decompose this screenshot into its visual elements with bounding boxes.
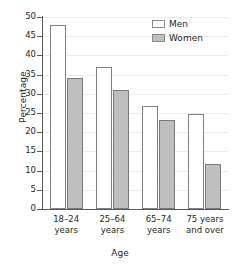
bar-women-4 (205, 164, 221, 209)
x-axis-category-label: 25–64years (86, 214, 138, 236)
x-axis-title: Age (0, 248, 240, 258)
gridline (43, 75, 228, 76)
plot-area (43, 17, 228, 209)
y-axis-tick-label: 20 (16, 127, 36, 136)
bar-men-1 (50, 25, 66, 209)
bar-men-4 (188, 114, 204, 209)
y-axis-tick-label-wrap: 45 (12, 31, 36, 41)
x-axis-category-label-line: years (86, 225, 138, 236)
y-axis-tick-label: 5 (16, 185, 36, 194)
y-axis-tick-label-wrap: 35 (12, 70, 36, 80)
x-axis-category-label: 18–24years (40, 214, 92, 236)
y-axis-tick-label-wrap: 0 (12, 204, 36, 214)
legend-item-label: Men (169, 19, 188, 29)
x-axis-category-label-line: 25–64 (99, 214, 125, 224)
y-axis-tick-label-wrap: 5 (12, 185, 36, 195)
legend-item-label: Women (169, 33, 203, 43)
x-axis-category-label-line: years (133, 225, 185, 236)
chart-legend: MenWomen (152, 17, 203, 45)
bar-women-2 (113, 90, 129, 209)
y-axis-tick-label: 35 (16, 70, 36, 79)
y-axis-tick-label: 40 (16, 50, 36, 59)
y-axis-tick-label-wrap: 20 (12, 127, 36, 137)
y-axis-tick-label: 25 (16, 108, 36, 117)
women-swatch-icon (152, 34, 165, 42)
y-axis-tick-label-wrap: 10 (12, 166, 36, 176)
x-axis-category-label-line: years (40, 225, 92, 236)
gridline (43, 55, 228, 56)
y-axis-tick-label: 45 (16, 31, 36, 40)
bar-women-1 (67, 78, 83, 209)
y-axis-tick-label: 0 (16, 204, 36, 213)
y-axis-tick-label-wrap: 50 (12, 12, 36, 22)
x-axis-category-label: 75 yearsand over (179, 214, 231, 236)
y-axis-tick-label: 10 (16, 166, 36, 175)
x-axis-category-label: 65–74years (133, 214, 185, 236)
y-axis-tick-label-wrap: 25 (12, 108, 36, 118)
bar-women-3 (159, 120, 175, 209)
x-axis-category-label-line: 65–74 (146, 214, 172, 224)
legend-item-women[interactable]: Women (152, 31, 203, 45)
x-axis-category-label-line: and over (179, 225, 231, 236)
bar-men-2 (96, 67, 112, 209)
x-axis-line (43, 209, 229, 210)
men-swatch-icon (152, 20, 165, 28)
x-axis-category-label-line: 18–24 (53, 214, 79, 224)
y-axis-tick-label-wrap: 15 (12, 146, 36, 156)
y-axis-tick-label: 50 (16, 12, 36, 21)
y-axis-tick-label-wrap: 40 (12, 50, 36, 60)
bar-men-3 (142, 106, 158, 209)
bar-chart: Percentage 05101520253035404550 18–24yea… (0, 0, 240, 276)
legend-item-men[interactable]: Men (152, 17, 203, 31)
y-axis-tick-label-wrap: 30 (12, 89, 36, 99)
x-axis-category-label-line: 75 years (186, 214, 223, 224)
y-axis-tick-label: 30 (16, 89, 36, 98)
y-axis-tick-label: 15 (16, 146, 36, 155)
